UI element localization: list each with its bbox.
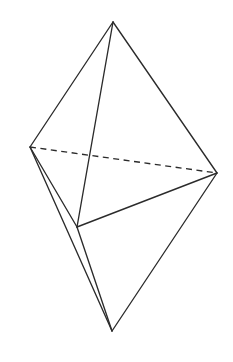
figure-canvas: Bipyramid Line drawing of a five-vertex … xyxy=(0,0,233,362)
bipyramid-diagram: Bipyramid Line drawing of a five-vertex … xyxy=(0,0,233,362)
faces-group xyxy=(30,22,217,331)
